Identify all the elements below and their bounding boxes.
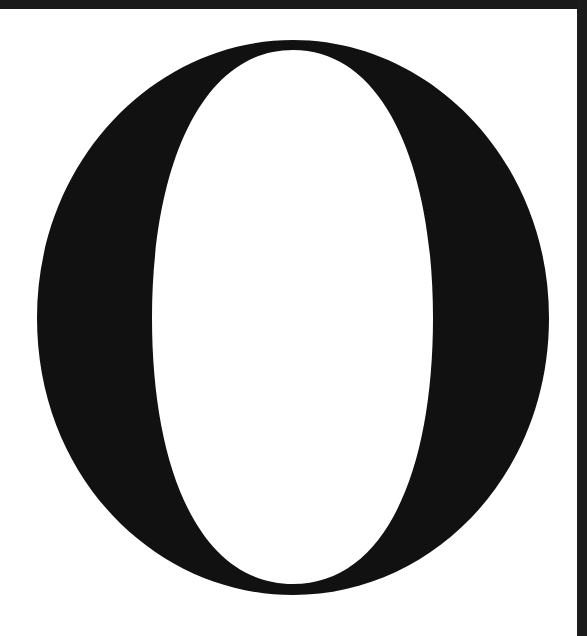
right-frame-border — [577, 0, 587, 636]
letter-o-glyph — [0, 9, 577, 636]
glyph-canvas: O — [0, 9, 577, 636]
top-frame-border — [0, 0, 587, 9]
letter-o-shape — [37, 40, 549, 595]
